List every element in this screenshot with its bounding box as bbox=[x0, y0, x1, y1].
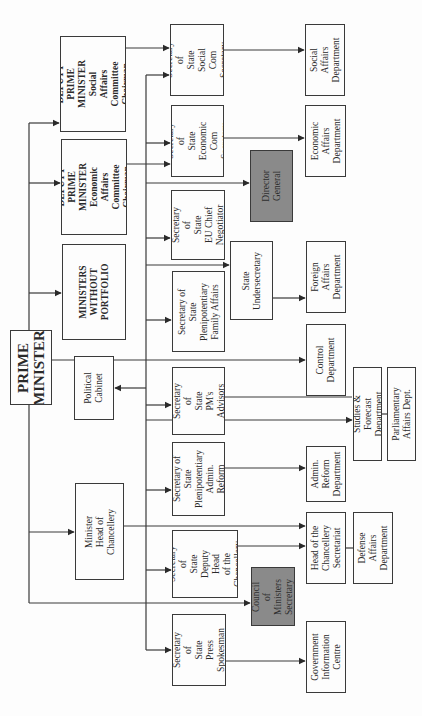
node-sos-eu: Secretary of State EU Chief Negotiator bbox=[171, 190, 225, 260]
node-sos-pm-advisors: Secretary of State PM's Advisors bbox=[172, 367, 225, 435]
node-label: Head of the Chancellery Secretariat bbox=[310, 525, 343, 571]
node-label: DEPUTY PRIME MINISTER Economic Affairs C… bbox=[61, 163, 127, 211]
node-min-chancellery: Minister Head of Chancellery bbox=[75, 483, 124, 580]
node-dpm-econ: DEPUTY PRIME MINISTER Economic Affairs C… bbox=[61, 139, 127, 235]
node-defense-dept: Defense Affairs Department bbox=[353, 512, 393, 584]
node-label: DEPUTY PRIME MINISTER Social Affairs Com… bbox=[60, 60, 126, 108]
node-parliamentary-dept: Parliamentary Affairs Dept. bbox=[387, 367, 416, 461]
node-control-dept: Control Department bbox=[306, 324, 346, 396]
node-label: Foreign Affairs Department bbox=[310, 255, 343, 300]
node-label: Secretary of State Press Spokesman bbox=[172, 628, 226, 672]
node-sos-family: Secretary of State Plenipotentiary Famil… bbox=[172, 271, 225, 352]
node-chancellery-secretariat: Head of the Chancellery Secretariat bbox=[306, 512, 346, 584]
node-sos-admin: Secretary of State Plenipotentiary Admin… bbox=[172, 442, 225, 516]
node-political-cabinet: Political Cabinet bbox=[74, 356, 114, 420]
node-social-dept: Social Affairs Department bbox=[305, 24, 345, 96]
node-label: Admin. Reform Department bbox=[310, 452, 343, 497]
node-dpm-social: DEPUTY PRIME MINISTER Social Affairs Com… bbox=[60, 36, 126, 132]
node-label: Studies & Forecast Department bbox=[353, 392, 382, 437]
node-label: Defense Affairs Department bbox=[357, 526, 390, 571]
node-label: Secretary of State Economic Com Secretar… bbox=[171, 122, 224, 161]
node-label: Council of Ministers Secretary bbox=[251, 579, 295, 615]
node-council-secretary: Council of Ministers Secretary bbox=[251, 567, 295, 626]
node-label: Director General bbox=[261, 170, 283, 202]
node-label: Secretary of State Plenipotentiary Admin… bbox=[172, 450, 225, 508]
node-label: Control Department bbox=[315, 338, 337, 383]
node-foreign-dept: Foreign Affairs Department bbox=[306, 241, 346, 313]
node-admin-dept: Admin. Reform Department bbox=[306, 446, 346, 502]
node-label: Parliamentary Affairs Dept. bbox=[391, 387, 413, 440]
node-label: Secretary of State PM's Advisors bbox=[172, 383, 225, 419]
node-label: State Undersecretary bbox=[241, 251, 263, 309]
node-pm: PRIME MINISTER bbox=[10, 330, 52, 405]
node-label: Social Affairs Department bbox=[309, 38, 342, 83]
node-state-undersecretary: State Undersecretary bbox=[230, 241, 273, 320]
node-label: PRIME MINISTER bbox=[15, 330, 47, 405]
node-sos-deputy-head: Secretary of State Deputy Head of the Ch… bbox=[172, 530, 238, 598]
node-director-general: Director General bbox=[250, 150, 293, 222]
node-label: Secretary of State EU Chief Negotiator bbox=[171, 205, 225, 246]
node-label: Government Information Centre bbox=[310, 633, 343, 681]
node-label: Secretary of State Plenipotentiary Famil… bbox=[177, 282, 221, 340]
node-econ-dept: Economic Affairs Department bbox=[305, 105, 346, 177]
node-label: MINISTERS WITHOUT PORTFOLIO bbox=[78, 264, 111, 321]
node-mwp: MINISTERS WITHOUT PORTFOLIO bbox=[62, 244, 126, 340]
node-sos-press: Secretary of State Press Spokesman bbox=[172, 614, 226, 686]
node-studies-dept: Studies & Forecast Department bbox=[353, 367, 382, 461]
node-label: Economic Affairs Department bbox=[309, 119, 342, 164]
node-sos-econ: Secretary of State Economic Com Secretar… bbox=[171, 105, 224, 177]
node-label: Secretary of State Social Com Secretary bbox=[170, 42, 224, 78]
node-label: Secretary of State Deputy Head of the Ch… bbox=[172, 541, 238, 587]
node-label: Minister Head of Chancellery bbox=[83, 509, 116, 555]
node-sos-social: Secretary of State Social Com Secretary bbox=[170, 24, 224, 96]
node-label: Political Cabinet bbox=[83, 372, 105, 404]
node-gov-info-centre: Government Information Centre bbox=[306, 621, 346, 693]
